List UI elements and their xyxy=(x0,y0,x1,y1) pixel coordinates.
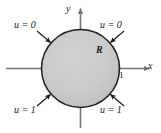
math-figure-unit-disk: u = 0 u = 0 u = 1 u = 1 y x R 1 xyxy=(0,0,161,133)
leader-arrow-bottom-left xyxy=(37,95,51,107)
region-label-R: R xyxy=(96,45,103,55)
boundary-label-top-right: u = 0 xyxy=(100,20,122,30)
region-disk xyxy=(42,30,120,108)
leader-arrow-top-right xyxy=(111,31,125,43)
boundary-label-bottom-left: u = 1 xyxy=(14,105,36,115)
x-axis-label: x xyxy=(148,61,152,71)
leader-arrow-top-left xyxy=(37,31,51,43)
y-axis-arrowhead xyxy=(78,8,83,15)
boundary-label-bottom-right: u = 1 xyxy=(100,105,122,115)
boundary-label-top-left: u = 0 xyxy=(14,20,36,30)
x-tick-label-one: 1 xyxy=(119,71,124,80)
y-axis-label: y xyxy=(66,4,70,14)
